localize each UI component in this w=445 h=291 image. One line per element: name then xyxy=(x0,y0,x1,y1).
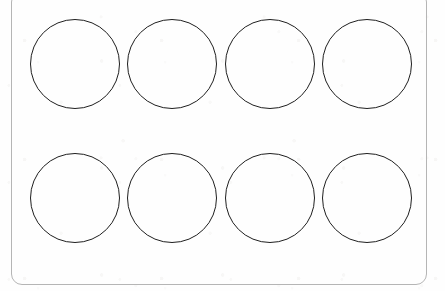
circle-slot[interactable] xyxy=(225,153,315,243)
circle-slot[interactable] xyxy=(127,153,217,243)
circle-slot[interactable] xyxy=(127,19,217,109)
circle-slot[interactable] xyxy=(30,153,120,243)
circle-slot[interactable] xyxy=(322,153,412,243)
circle-slot[interactable] xyxy=(30,19,120,109)
template-sheet-canvas xyxy=(0,0,445,291)
circle-slot[interactable] xyxy=(225,19,315,109)
circle-slot[interactable] xyxy=(322,19,412,109)
